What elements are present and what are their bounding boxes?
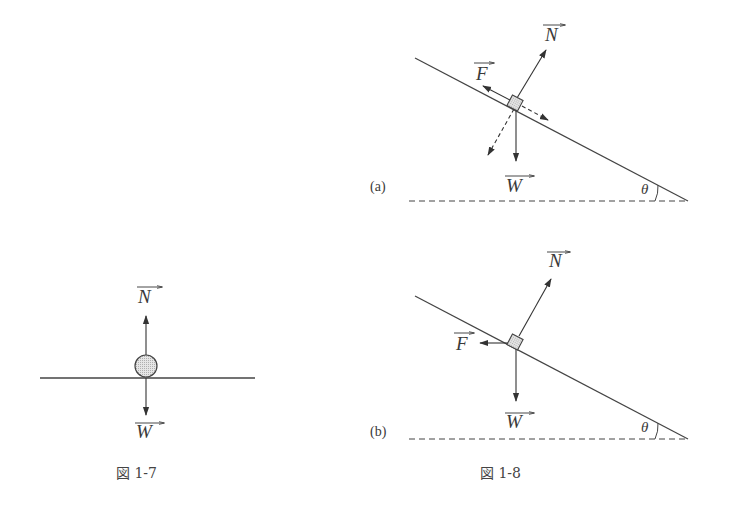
label-w: W (136, 421, 154, 442)
friction-force-arrow (483, 86, 510, 100)
caption-fig-1-8: 図 1-8 (480, 465, 521, 481)
panel-label-b: (b) (370, 424, 387, 440)
label-w: W (506, 175, 524, 196)
theta-label: θ (641, 419, 649, 435)
angle-arc (655, 185, 658, 201)
label-f: F (475, 63, 488, 84)
label-n: N (137, 286, 152, 307)
angle-arc (655, 423, 658, 439)
incline-line (415, 296, 688, 439)
label-n: N (544, 24, 559, 45)
figure-1-7: N W 図 1-7 (40, 286, 255, 481)
caption-fig-1-7: 図 1-7 (116, 465, 157, 481)
normal-force-arrow (517, 50, 546, 98)
ball (135, 355, 157, 377)
panel-label-a: (a) (370, 179, 386, 195)
perpendicular-component-arrow (488, 109, 514, 155)
label-n: N (548, 250, 563, 271)
normal-force-arrow (519, 279, 551, 336)
figure-1-8a: θ (a) N F W (370, 24, 688, 201)
block (507, 334, 523, 350)
block (507, 95, 523, 111)
label-f: F (455, 333, 468, 354)
label-w: W (506, 411, 524, 432)
physics-diagrams: N W 図 1-7 θ (a) N F W θ (b) N (0, 0, 736, 513)
theta-label: θ (641, 181, 649, 197)
incline-line (415, 58, 688, 201)
figure-1-8b: θ (b) N F W 図 1-8 (370, 250, 688, 481)
parallel-component-arrow (522, 106, 548, 120)
